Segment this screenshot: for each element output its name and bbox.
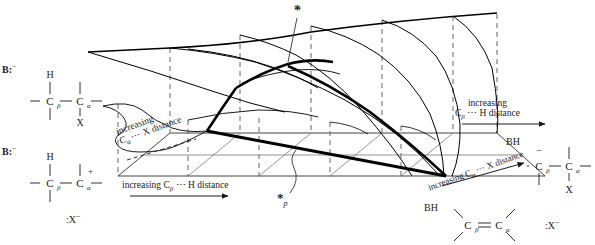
species-bottom-left-leaving-group: :X− (66, 213, 81, 226)
atom-c-beta: C (46, 95, 53, 107)
saddle-point-projection-marker: *p (277, 191, 288, 208)
vertical-guide-lines (118, 14, 497, 176)
species-bottom-right-leaving-group: :X− (545, 219, 560, 232)
atom-h-top: H (46, 151, 53, 162)
leaving-group-x: X (76, 117, 84, 128)
svg-text:α: α (87, 184, 91, 192)
lewis-structure-reactant: H C β C α X (28, 66, 113, 128)
species-bottom-left-structure: H C β C α + (28, 148, 113, 206)
axis-label-right-line2: Cβ ⋯ H distance (455, 109, 520, 121)
svg-text:β: β (545, 167, 550, 175)
species-top-left-structure: H C β C α X (28, 66, 113, 128)
atom-c-alpha: C (76, 95, 83, 107)
atom-c-beta: C (464, 219, 471, 231)
svg-text:α: α (576, 167, 580, 175)
saddle-point-star-marker: * (294, 4, 301, 19)
axis-label-right-vertical: increasing Cβ ⋯ H distance (455, 99, 520, 121)
svg-text:β: β (56, 102, 61, 110)
species-top-right-structure: − C β C α X (527, 137, 595, 199)
species-top-left-base: B:− (2, 62, 16, 75)
atom-c-alpha: C (565, 160, 572, 172)
axis-label-bottom: increasing Cβ ⋯ H distance (122, 181, 228, 193)
charge-minus-c-beta: − (536, 145, 542, 156)
atom-h-top: H (46, 69, 53, 80)
figure-canvas: increasing Cβ ⋯ H distance increasing Cα… (0, 0, 595, 245)
atom-c-beta: C (46, 177, 53, 189)
charge-plus-c-alpha: + (88, 166, 93, 176)
species-bottom-right-base: BH (424, 202, 438, 213)
species-bottom-right-structure: C β C α (448, 203, 536, 245)
saddle-projection-leader (290, 150, 296, 193)
atom-c-alpha: C (76, 177, 83, 189)
svg-text:β: β (56, 184, 61, 192)
leaving-group-x: X (565, 184, 573, 195)
lewis-structure-carbanion: − C β C α X (527, 137, 595, 199)
species-bottom-left-base: B:− (2, 144, 16, 157)
saddle-leader-line (288, 18, 297, 62)
lewis-structure-carbocation: H C β C α + (28, 148, 113, 206)
species-top-right-base: BH (506, 136, 520, 147)
svg-text:α: α (87, 102, 91, 110)
atom-c-beta: C (535, 160, 542, 172)
lewis-structure-alkene: C β C α (448, 203, 536, 245)
atom-c-alpha: C (495, 219, 502, 231)
